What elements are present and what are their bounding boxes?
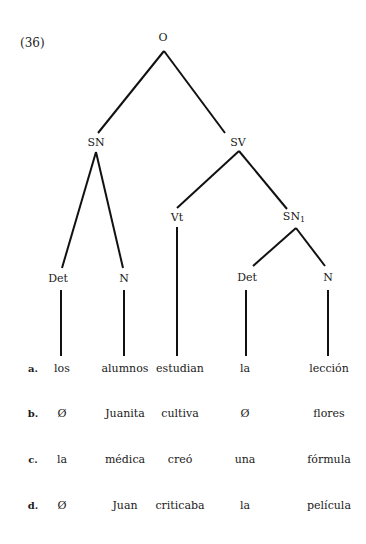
- node-label: N: [323, 271, 333, 284]
- tree-branch: [177, 151, 239, 208]
- sentence-word: la: [240, 499, 250, 512]
- sentence-word: Ø: [57, 499, 66, 512]
- sentence-word: alumnos: [102, 362, 149, 375]
- tree-branch: [296, 228, 325, 266]
- tree-branch: [253, 228, 296, 266]
- sentence-word: estudian: [156, 362, 204, 375]
- tree-node-sv: SV: [230, 137, 245, 149]
- tree-branch: [239, 151, 287, 209]
- node-label: Vt: [171, 211, 183, 224]
- sentence-word: una: [235, 453, 256, 466]
- tree-node-det2: Det: [237, 272, 257, 284]
- sentence-word: flores: [313, 407, 344, 420]
- sentence-word: cultiva: [161, 407, 198, 420]
- sentence-word: Juan: [112, 499, 137, 512]
- tree-node-n2: N: [323, 272, 333, 284]
- tree-branch: [62, 152, 96, 268]
- sentence-word: la: [57, 453, 67, 466]
- sentence-word: Juanita: [105, 407, 145, 420]
- sentence-word: Ø: [57, 407, 66, 420]
- node-label: N: [119, 272, 129, 285]
- sentence-word: criticaba: [155, 499, 204, 512]
- row-label: c.: [28, 454, 38, 465]
- sentence-word: creó: [168, 453, 193, 466]
- sentence-word: lección: [309, 362, 349, 375]
- tree-branch: [164, 51, 225, 133]
- sentence-word: la: [240, 362, 250, 375]
- sentence-word: médica: [105, 453, 145, 466]
- row-label: d.: [28, 500, 38, 511]
- node-label: SV: [230, 136, 245, 149]
- tree-branch: [98, 51, 164, 133]
- tree-branch: [96, 152, 123, 268]
- tree-node-det1: Det: [48, 273, 68, 285]
- node-label: Det: [237, 271, 257, 284]
- tree-node-o: O: [158, 32, 167, 44]
- sentence-word: Ø: [240, 407, 249, 420]
- sentence-word: los: [54, 362, 70, 375]
- tree-node-n1: N: [119, 273, 129, 285]
- sentence-word: película: [307, 499, 351, 512]
- tree-node-vt: Vt: [171, 212, 183, 224]
- node-label: SN: [87, 136, 104, 149]
- node-label: Det: [48, 272, 68, 285]
- row-label: b.: [28, 408, 38, 419]
- node-subscript: 1: [300, 215, 305, 224]
- tree-node-sn: SN: [87, 137, 104, 149]
- node-label: O: [158, 31, 167, 44]
- sentence-word: fórmula: [307, 453, 351, 466]
- tree-node-sn1: SN1: [283, 211, 305, 226]
- row-label: a.: [28, 363, 38, 374]
- node-label: SN: [283, 210, 300, 223]
